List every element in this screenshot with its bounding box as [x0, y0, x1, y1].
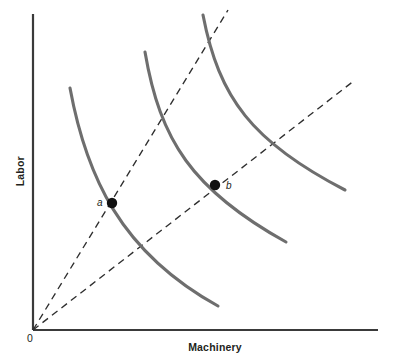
- axes-group: [33, 14, 378, 330]
- isoquant-curve-1: [70, 88, 218, 306]
- data-points-group: [107, 180, 220, 208]
- plot-canvas: [0, 0, 401, 360]
- data-point-b: [210, 180, 220, 190]
- isoquant-figure: Labor Machinery 0 a b: [0, 0, 401, 360]
- data-point-a: [107, 198, 117, 208]
- origin-label: 0: [27, 333, 33, 344]
- isoquant-curve-2: [145, 52, 286, 242]
- expansion-ray-steep: [33, 10, 228, 330]
- y-axis-label: Labor: [15, 149, 26, 193]
- data-point-label-b: b: [226, 181, 232, 191]
- x-axis-label: Machinery: [160, 342, 270, 353]
- isoquant-curves-group: [70, 15, 345, 306]
- isoquant-curve-3: [203, 15, 345, 190]
- data-point-label-a: a: [97, 198, 103, 208]
